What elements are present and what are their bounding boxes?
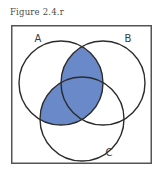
set-label-b: B: [125, 33, 132, 44]
figure-container: Figure 2.4.r: [0, 0, 162, 172]
figure-caption: Figure 2.4.r: [10, 6, 64, 18]
set-label-c: C: [106, 147, 113, 158]
set-label-a: A: [35, 33, 42, 44]
diagram-frame: A B C: [11, 25, 152, 164]
venn-diagram-svg: A B C: [11, 25, 152, 164]
